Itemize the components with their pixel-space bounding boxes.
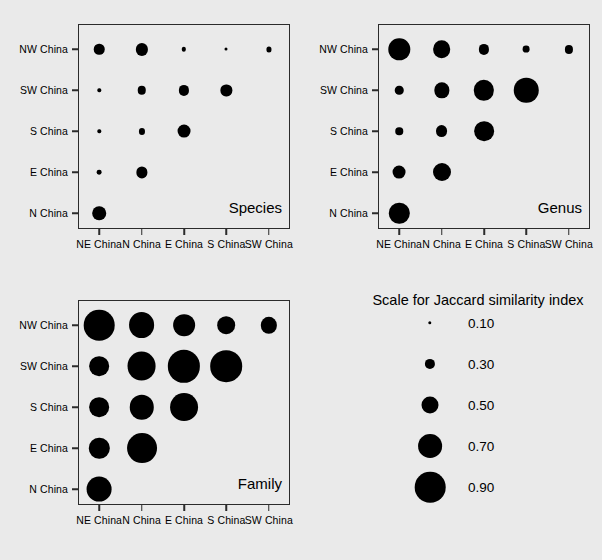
legend-value-label: 0.90: [468, 480, 494, 495]
legend-bubble: [422, 397, 439, 414]
legend-value-label: 0.70: [468, 439, 494, 454]
legend-value-label: 0.30: [468, 357, 494, 372]
legend-value-label: 0.10: [468, 316, 494, 331]
legend-bubble: [425, 359, 435, 369]
legend-bubble: [418, 434, 442, 458]
legend-bubble: [415, 472, 446, 503]
legend-bubble: [428, 321, 431, 324]
legend-value-label: 0.50: [468, 398, 494, 413]
panel-legend-scale: Scale for Jaccard similarity index 0.100…: [0, 0, 602, 560]
figure-canvas: NW ChinaSW ChinaS ChinaE ChinaN ChinaNE …: [0, 0, 602, 560]
legend-title: Scale for Jaccard similarity index: [372, 292, 583, 308]
